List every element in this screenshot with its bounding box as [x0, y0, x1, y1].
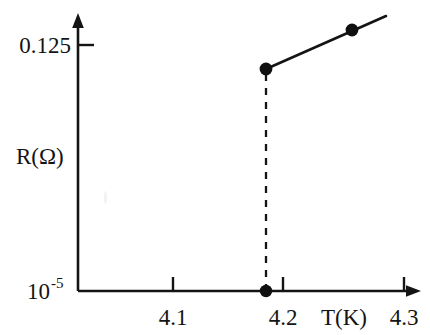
- y-tick-label-0125: 0.125: [19, 33, 71, 58]
- superconducting-transition-chart: 0.125 10 -5 R(Ω) 4.1 4.2 T(K) 4.3: [0, 0, 430, 335]
- normal-state-line: [266, 16, 386, 69]
- series-normal-state-branch: [266, 16, 386, 69]
- y-tick-label-10e-5: 10 -5: [27, 275, 64, 304]
- y-axis-title: R(Ω): [16, 144, 64, 169]
- y-tick-label-base: 10: [27, 279, 50, 304]
- marker-normal-state-point: [346, 24, 359, 37]
- y-tick-label-exponent: -5: [51, 275, 64, 291]
- y-axis-arrowhead-icon: [72, 13, 84, 28]
- marker-transition-top: [260, 63, 273, 76]
- y-axis: [72, 13, 94, 291]
- x-axis-arrowhead-icon: [406, 285, 421, 297]
- x-tick-label-42: 4.2: [269, 305, 298, 330]
- x-axis: [78, 277, 421, 297]
- figure-root: 0.125 10 -5 R(Ω) 4.1 4.2 T(K) 4.3: [0, 0, 430, 335]
- x-tick-label-43: 4.3: [390, 305, 419, 330]
- x-axis-title: T(K): [321, 305, 367, 330]
- marker-transition-foot: [260, 285, 272, 297]
- x-tick-label-41: 4.1: [159, 305, 188, 330]
